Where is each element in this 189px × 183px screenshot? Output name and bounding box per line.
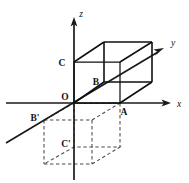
label-point-A: A <box>121 107 128 117</box>
dashed-cube <box>44 103 120 164</box>
solid-cube <box>74 42 152 103</box>
solid-cube-edge-depth-top-left <box>74 42 104 62</box>
label-axis-x: x <box>176 99 182 109</box>
dashed-cube-bottom-face <box>44 147 120 164</box>
figure-canvas: C B O A B' C' z y x <box>0 0 189 183</box>
geometry-figure: C B O A B' C' z y x <box>0 0 189 183</box>
label-point-C: C <box>59 58 66 68</box>
label-axis-y: y <box>170 38 176 48</box>
solid-cube-edge-depth-bottom-right <box>120 82 152 103</box>
label-point-C-prime: C' <box>61 139 71 149</box>
solid-cube-edge-depth-bottom-left <box>74 82 104 103</box>
label-point-O: O <box>61 92 68 102</box>
label-point-B: B <box>93 77 100 87</box>
dashed-cube-top-face <box>44 103 120 120</box>
label-axis-z: z <box>78 9 83 19</box>
label-point-B-prime: B' <box>31 113 40 123</box>
